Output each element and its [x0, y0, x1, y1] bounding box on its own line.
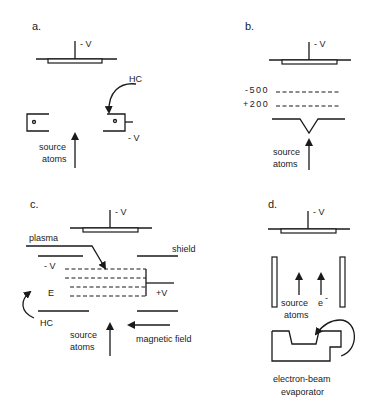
evaporator-crucible-icon	[272, 331, 341, 361]
shield-label: shield	[172, 244, 196, 254]
hc-label: HC	[129, 74, 142, 84]
source-label-line1: source	[39, 142, 66, 152]
evaporator-label-line1: electron-beam	[273, 374, 331, 384]
left-plate-icon	[272, 257, 277, 307]
magnetic-field-label: magnetic field	[136, 334, 192, 344]
panel-d-label: d.	[268, 198, 277, 210]
target-voltage-label: - V	[80, 39, 92, 49]
e-label: E	[48, 288, 54, 298]
source-label-line2: atoms	[284, 310, 309, 320]
plasma-label: plasma	[29, 233, 58, 243]
source-label-line1: source	[70, 330, 97, 340]
evaporator-label-line2: evaporator	[281, 387, 324, 397]
source-label-line2: atoms	[273, 159, 298, 169]
panel-b-label: b.	[245, 20, 254, 32]
target-voltage-label: - V	[115, 207, 127, 217]
negative-voltage-label: - V	[44, 261, 56, 271]
panel-b: b. - V -500 +200 source atoms	[243, 20, 351, 170]
target-electrode-icon	[268, 211, 350, 233]
electron-beam-arrow-icon	[316, 320, 354, 356]
grid-top-voltage-label: -500	[245, 85, 269, 95]
ring-voltage-label: - V	[128, 133, 140, 143]
electron-label: e	[318, 298, 323, 308]
right-ring-electrode-icon	[103, 114, 133, 131]
hc-label: HC	[40, 318, 53, 328]
crucible-icon	[272, 119, 345, 133]
target-voltage-label: - V	[314, 39, 326, 49]
hollow-cathode-arrow-icon	[109, 84, 136, 112]
source-label-line2: atoms	[42, 154, 67, 164]
panel-c: c. - V plasma shield - V +V E HC	[23, 198, 196, 356]
panel-a: a. - V HC - V source atoms	[27, 20, 142, 168]
positive-voltage-label: +V	[156, 288, 167, 298]
target-voltage-label: - V	[313, 207, 325, 217]
right-plate-icon	[340, 257, 345, 307]
target-electrode-icon	[36, 41, 117, 63]
left-ring-electrode-icon	[27, 114, 49, 131]
panel-c-label: c.	[30, 198, 39, 210]
source-label-line1: source	[281, 298, 308, 308]
grid-bottom-voltage-label: +200	[243, 99, 269, 109]
source-label-line1: source	[273, 147, 300, 157]
plasma-pointer-arrow-icon	[26, 246, 105, 268]
panel-a-label: a.	[32, 20, 41, 32]
source-label-line2: atoms	[70, 342, 95, 352]
deposition-diagram: a. - V HC - V source atoms b.	[0, 0, 371, 410]
hollow-cathode-arrow-icon	[23, 292, 34, 318]
electron-charge-superscript: -	[325, 293, 328, 303]
panel-d: d. - V source atoms e - electron-beam ev…	[268, 198, 354, 397]
target-electrode-icon	[269, 42, 351, 64]
target-electrode-icon	[70, 210, 152, 232]
